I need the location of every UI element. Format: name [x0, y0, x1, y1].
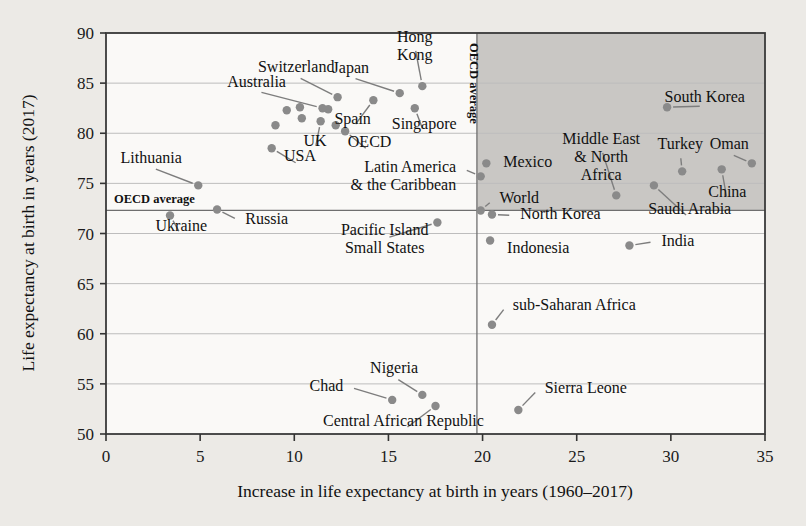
data-point-saudi-arabia[interactable] — [650, 181, 658, 189]
data-point-uk[interactable] — [316, 117, 324, 125]
data-point-turkey[interactable] — [678, 167, 686, 175]
leader-line — [681, 158, 682, 165]
point-label-turkey: Turkey — [657, 135, 703, 153]
data-point-oman[interactable] — [748, 159, 756, 167]
data-point[interactable] — [298, 114, 306, 122]
data-point-china[interactable] — [717, 165, 725, 173]
point-label-sub-saharan-africa: sub-Saharan Africa — [513, 296, 636, 313]
data-point-hong-kong[interactable] — [418, 82, 426, 90]
point-label-mexico: Mexico — [503, 153, 552, 170]
data-point-sierra-leone[interactable] — [514, 406, 522, 414]
data-point-chad[interactable] — [388, 396, 396, 404]
ytick-label-80: 80 — [77, 124, 94, 143]
point-label-north-korea: North Korea — [520, 205, 600, 222]
point-label-south-korea: South Korea — [665, 88, 745, 105]
data-point-russia[interactable] — [213, 205, 221, 213]
point-label-nigeria: Nigeria — [370, 359, 418, 377]
ytick-label-70: 70 — [77, 225, 94, 244]
ytick-label-65: 65 — [77, 275, 94, 294]
xtick-label-25: 25 — [568, 447, 585, 466]
xtick-label-5: 5 — [196, 447, 205, 466]
xtick-label-0: 0 — [102, 447, 111, 466]
ytick-label-60: 60 — [77, 325, 94, 344]
data-point-nigeria[interactable] — [418, 391, 426, 399]
point-label-usa: USA — [284, 147, 316, 164]
data-point[interactable] — [296, 103, 304, 111]
point-label-oecd: OECD — [348, 133, 392, 150]
data-point-central-african-republic[interactable] — [431, 402, 439, 410]
data-point-middle-east-north-africa[interactable] — [612, 191, 620, 199]
point-label-hong-kong: HongKong — [397, 28, 433, 64]
point-label-central-african-republic: Central African Republic — [323, 412, 484, 430]
point-label-india: India — [661, 232, 694, 249]
point-label-oman: Oman — [710, 135, 749, 152]
ytick-label-50: 50 — [77, 425, 94, 444]
data-point-indonesia[interactable] — [486, 236, 494, 244]
xtick-label-35: 35 — [757, 447, 774, 466]
data-point-usa[interactable] — [267, 144, 275, 152]
point-label-russia: Russia — [245, 210, 288, 227]
point-label-spain: Spain — [334, 110, 370, 128]
point-label-world: World — [500, 189, 540, 206]
point-label-australia: Australia — [227, 73, 286, 90]
point-label-indonesia: Indonesia — [507, 239, 569, 256]
data-point-world[interactable] — [476, 206, 484, 214]
data-point-india[interactable] — [625, 241, 633, 249]
y-axis-title: Life expectancy at birth in years (2017) — [18, 94, 38, 371]
leader-line — [498, 215, 509, 216]
data-point-singapore[interactable] — [411, 104, 419, 112]
data-point-australia[interactable] — [318, 104, 326, 112]
data-point[interactable] — [271, 121, 279, 129]
data-point-north-korea[interactable] — [488, 210, 496, 218]
ytick-label-85: 85 — [77, 74, 94, 93]
oecd-average-horizontal-label: OECD average — [114, 192, 195, 206]
oecd-average-vertical-label: OECD average — [467, 43, 481, 124]
data-point[interactable] — [283, 106, 291, 114]
point-label-singapore: Singapore — [392, 115, 457, 133]
xtick-label-30: 30 — [662, 447, 679, 466]
point-label-sierra-leone: Sierra Leone — [545, 379, 627, 396]
data-point-switzerland[interactable] — [333, 93, 341, 101]
point-label-saudi-arabia: Saudi Arabia — [648, 200, 731, 217]
ytick-label-75: 75 — [77, 174, 94, 193]
ytick-label-90: 90 — [77, 24, 94, 43]
leader-line — [673, 106, 700, 107]
data-point-spain[interactable] — [369, 96, 377, 104]
xtick-label-10: 10 — [286, 447, 303, 466]
point-label-china: China — [708, 183, 746, 200]
chart-stage: 50556065707580859005101520253035 HongKon… — [0, 0, 806, 526]
point-label-chad: Chad — [309, 377, 343, 394]
data-point-lithuania[interactable] — [194, 181, 202, 189]
x-axis-title: Increase in life expectancy at birth in … — [237, 481, 633, 501]
point-label-ukraine: Ukraine — [156, 217, 208, 234]
point-label-lithuania: Lithuania — [121, 149, 182, 166]
data-point-mexico[interactable] — [482, 159, 490, 167]
xtick-label-15: 15 — [380, 447, 397, 466]
data-point-sub-saharan-africa[interactable] — [488, 321, 496, 329]
ytick-label-55: 55 — [77, 375, 94, 394]
data-point-japan[interactable] — [396, 89, 404, 97]
data-point-latin-america-the-caribbean[interactable] — [476, 172, 484, 180]
point-label-japan: Japan — [333, 59, 369, 77]
point-label-latin-america-the-caribbean: Latin America& the Caribbean — [350, 158, 456, 193]
point-label-pacific-island-small-states: Pacific IslandSmall States — [341, 221, 429, 256]
xtick-label-20: 20 — [474, 447, 491, 466]
scatter-chart: 50556065707580859005101520253035 HongKon… — [0, 0, 806, 526]
data-point-pacific-island-small-states[interactable] — [433, 218, 441, 226]
